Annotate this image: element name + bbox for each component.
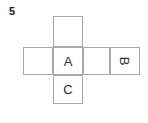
net-cell-top: [53, 16, 83, 47]
net-cell-row-right-1: [83, 47, 110, 75]
net-cell-label-a: A: [54, 48, 82, 74]
net-cell-row-left: [23, 47, 53, 75]
net-cell-row-right-1-label: [84, 48, 109, 74]
net-cell-row-right-2-b: B: [110, 47, 140, 75]
cube-net-diagram: A B C: [0, 0, 148, 123]
net-cell-center-a: A: [53, 47, 83, 75]
net-cell-bottom-c: C: [53, 75, 83, 104]
net-cell-top-label: [54, 17, 82, 46]
net-cell-label-b: B: [112, 47, 138, 75]
net-cell-label-c: C: [54, 76, 82, 103]
figure-root: 5 A B C: [0, 0, 148, 123]
net-cell-row-left-label: [24, 48, 52, 74]
